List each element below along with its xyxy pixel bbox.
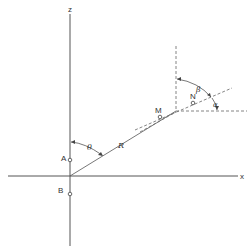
z-axis-label: z [68, 5, 72, 14]
point-b [68, 192, 72, 196]
point-m [158, 115, 162, 119]
beta-arrowhead-start [177, 77, 181, 81]
point-m-label: M [155, 106, 162, 115]
point-b-label: B [58, 186, 63, 195]
radius-label: R [117, 141, 124, 150]
theta-label: θ [87, 143, 92, 152]
x-axis-label: x [240, 172, 244, 181]
mn-axis-line-lower [140, 112, 176, 132]
theta-arrowhead-start [71, 140, 75, 144]
point-a [68, 158, 72, 162]
point-n-label: N [190, 92, 196, 101]
beta-label: β [195, 85, 201, 94]
geometry-diagram: z x R θ β α A B M N [0, 0, 250, 247]
point-a-label: A [61, 154, 67, 163]
point-n [191, 101, 195, 105]
alpha-label: α [213, 101, 218, 109]
